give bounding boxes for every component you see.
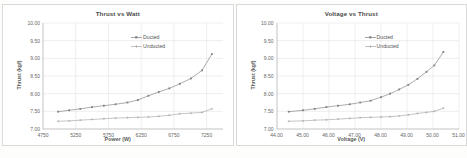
legend-cross-marker-icon <box>365 44 376 49</box>
data-point-marker <box>302 109 304 111</box>
data-point-marker <box>201 69 203 71</box>
data-point-marker <box>433 65 435 67</box>
x-tick-label: 45.00 <box>290 132 316 138</box>
data-point-marker <box>179 83 181 85</box>
data-point-marker <box>348 103 350 105</box>
legend-cross-marker-icon <box>131 44 142 49</box>
x-tick-label: 49.00 <box>394 132 420 138</box>
data-point-marker <box>313 108 315 110</box>
y-tick-label: 7.50 <box>18 108 40 114</box>
y-tick-label: 8.00 <box>252 91 274 97</box>
y-tick-label: 10.00 <box>252 20 274 26</box>
data-point-marker <box>147 95 149 97</box>
y-tick-label: 9.00 <box>252 55 274 61</box>
data-point-marker <box>287 111 289 113</box>
data-point-marker <box>57 111 59 113</box>
chart-panel-voltage-vs-thrust[interactable]: Voltage vs Thrust Thrust (kgf) Voltage (… <box>236 4 467 146</box>
data-point-marker <box>79 108 81 110</box>
x-tick-label: 48.00 <box>368 132 394 138</box>
data-point-marker <box>103 105 105 107</box>
x-tick-label: 47.00 <box>342 132 368 138</box>
data-point-marker <box>115 103 117 105</box>
data-point-marker <box>211 53 213 55</box>
x-tick-label: 7250 <box>194 132 220 138</box>
data-point-marker <box>359 102 361 104</box>
y-tick-label: 8.50 <box>252 73 274 79</box>
legend-square-marker-icon <box>365 35 376 40</box>
data-point-marker <box>398 89 400 91</box>
y-tick-label: 9.50 <box>252 38 274 44</box>
y-tick-label: 9.00 <box>18 55 40 61</box>
chart-panel-thrust-vs-watt[interactable]: Thrust vs Watt Thrust (kgf) Power (W) 10… <box>2 4 234 146</box>
data-point-marker <box>325 106 327 108</box>
legend-square-marker-icon <box>131 35 142 40</box>
y-tick-label: 7.50 <box>252 108 274 114</box>
data-point-marker <box>68 109 70 111</box>
legend-label: Ducted <box>143 34 159 40</box>
data-point-marker <box>442 51 444 53</box>
legend-item-ducted[interactable]: Ducted <box>131 34 159 40</box>
legend-item-unducted[interactable]: Unducted <box>365 43 399 49</box>
x-tick-label: 5750 <box>95 132 121 138</box>
x-tick-label: 46.00 <box>316 132 342 138</box>
data-point-marker <box>158 91 160 93</box>
data-point-marker <box>389 93 391 95</box>
legend-label: Unducted <box>377 43 399 49</box>
legend-label: Unducted <box>143 43 165 49</box>
data-point-marker <box>416 78 418 80</box>
y-tick-label: 10.00 <box>18 20 40 26</box>
data-point-marker <box>337 105 339 107</box>
x-tick-label: 5250 <box>63 132 89 138</box>
y-tick-label: 9.50 <box>18 38 40 44</box>
legend-item-ducted[interactable]: Ducted <box>365 34 393 40</box>
data-point-marker <box>425 71 427 73</box>
data-point-marker <box>127 102 129 104</box>
x-tick-label: 4750 <box>30 132 56 138</box>
data-point-marker <box>407 84 409 86</box>
x-tick-label: 6750 <box>161 132 187 138</box>
data-point-marker <box>168 87 170 89</box>
data-point-marker <box>380 96 382 98</box>
data-point-marker <box>369 100 371 102</box>
x-tick-label: 6250 <box>128 132 154 138</box>
x-tick-label: 44.00 <box>264 132 290 138</box>
x-tick-label: 50.00 <box>420 132 446 138</box>
y-tick-label: 8.00 <box>18 91 40 97</box>
y-tick-label: 8.50 <box>18 73 40 79</box>
legend-label: Ducted <box>377 34 393 40</box>
x-tick-label: 51.00 <box>446 132 467 138</box>
data-point-marker <box>137 99 139 101</box>
data-point-marker <box>190 78 192 80</box>
legend-item-unducted[interactable]: Unducted <box>131 43 165 49</box>
data-point-marker <box>91 106 93 108</box>
charts-page: Thrust vs Watt Thrust (kgf) Power (W) 10… <box>0 0 467 158</box>
